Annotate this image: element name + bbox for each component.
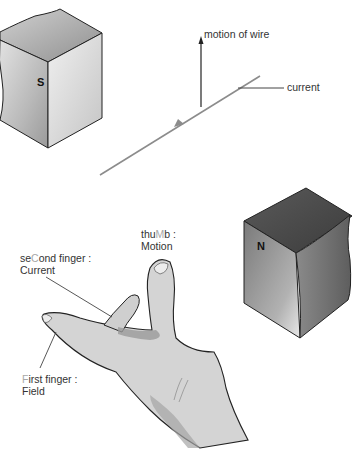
south-pole-label: S — [37, 76, 44, 88]
second-finger-label-post: ond finger : — [39, 252, 92, 264]
south-magnet — [0, 9, 102, 148]
first-finger-leader-line — [40, 332, 56, 368]
second-finger-meaning: Current — [20, 264, 55, 276]
first-finger-meaning: Field — [22, 385, 45, 397]
current-label: current — [287, 81, 320, 93]
thumb-label: thuMb : Motion — [141, 228, 176, 252]
motion-of-wire-label: motion of wire — [204, 28, 269, 40]
north-magnet — [244, 188, 352, 338]
wire-group — [100, 36, 284, 175]
hand-illustration — [42, 260, 248, 448]
second-finger-label-key-letter: C — [31, 252, 39, 264]
second-finger-leader-line — [46, 277, 112, 317]
second-finger-label-pre: se — [20, 252, 31, 264]
first-finger-label: First finger : Field — [22, 373, 77, 397]
wire — [100, 76, 260, 175]
second-finger-label: seCond finger : Current — [20, 252, 91, 276]
thumb-meaning: Motion — [141, 240, 173, 252]
first-finger-label-post: irst finger : — [28, 373, 77, 385]
north-pole-label: N — [257, 240, 265, 252]
motion-arrowhead-icon — [199, 36, 204, 44]
thumb-label-post: b : — [164, 228, 176, 240]
thumb-label-pre: thu — [141, 228, 156, 240]
